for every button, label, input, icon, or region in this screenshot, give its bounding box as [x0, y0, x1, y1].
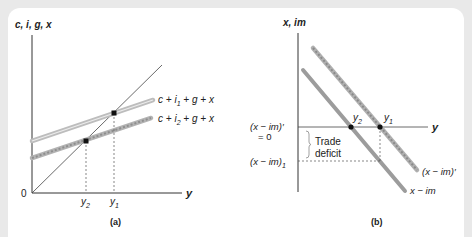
trade-deficit-label-line1: Trade: [315, 136, 341, 147]
y-axis-label-a: c, i, g, x: [15, 19, 52, 30]
label-c-i2-part: c + i: [158, 113, 177, 124]
panel-a-graph: c, i, g, x y 0 c + i1 + g + x c + i2 + g…: [15, 19, 215, 227]
line-label-x-im-prime: (x − im)′: [422, 166, 457, 177]
line-c-i1-g-x-highlight: [32, 100, 153, 141]
tick-label-y1: y1: [109, 196, 119, 209]
caption-b: (b): [371, 217, 383, 227]
trade-deficit-brace: [306, 131, 311, 158]
label-c-i1-g-x: c + i1 + g + x: [158, 94, 215, 107]
label-g-x-part: + g + x: [181, 113, 215, 124]
label-c-i2-g-x: c + i2 + g + x: [158, 113, 215, 126]
point-label-y2: y2: [352, 112, 362, 125]
equilibrium-point-y1: [112, 111, 117, 116]
point-label-y1: y1: [383, 112, 393, 125]
x-axis-label-a: y: [185, 187, 193, 199]
origin-label: 0: [21, 188, 27, 199]
caption-a: (a): [110, 217, 121, 227]
deficit-level-subscript: 1: [282, 162, 286, 169]
line-label-x-im: x − im: [409, 185, 436, 196]
point-y1-b: [377, 124, 382, 129]
y-axis-label-b: x, im: [282, 17, 306, 28]
zero-label-line2: = 0: [258, 131, 271, 142]
point-y1-subscript: 1: [389, 118, 393, 125]
tick-y1-subscript: 1: [115, 202, 119, 209]
equilibrium-point-y2: [84, 139, 89, 144]
tick-label-y2: y2: [80, 196, 90, 209]
45-degree-line: [32, 65, 162, 193]
label-c-i1-part: c + i: [158, 94, 177, 105]
deficit-level-label: (x − im)1: [250, 156, 286, 169]
panel-b-graph: x, im y (x − im)′ = 0 (x − im)1 Trade de…: [250, 17, 457, 227]
line-x-im: [303, 70, 405, 191]
point-y2-subscript: 2: [357, 118, 362, 125]
tick-y2-subscript: 2: [85, 202, 90, 209]
point-y2-b: [348, 124, 353, 129]
deficit-level-base: (x − im): [250, 156, 282, 167]
diagram-canvas: c, i, g, x y 0 c + i1 + g + x c + i2 + g…: [0, 0, 472, 237]
label-g-x-part: + g + x: [181, 94, 215, 105]
trade-deficit-label-line2: deficit: [315, 148, 341, 159]
x-axis-label-b: y: [431, 121, 439, 133]
